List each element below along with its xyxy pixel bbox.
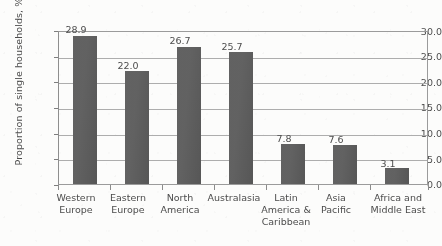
bar-eastern-europe <box>125 71 149 184</box>
x-label-asia-pacific: Asia Pacific <box>312 192 360 216</box>
x-label-eastern-europe: Eastern Europe <box>104 192 152 216</box>
bar-australasia <box>229 52 253 184</box>
bar-value-asia-pacific: 7.6 <box>314 135 358 145</box>
x-label-africa-middle-east: Africa and Middle East <box>362 192 434 216</box>
bar-value-latin-america: 7.8 <box>262 134 306 144</box>
x-label-north-america: North America <box>156 192 204 216</box>
x-label-western-europe: Western Europe <box>52 192 100 216</box>
y-axis-title: Proportion of single households, % <box>13 0 24 232</box>
bar-chart-figure: Proportion of single households, % 30.0 … <box>0 0 442 246</box>
x-tick-mark-7 <box>428 185 429 190</box>
bar-north-america <box>177 47 201 184</box>
x-tick-mark-4 <box>266 185 267 190</box>
bar-asia-pacific <box>333 145 357 184</box>
x-tick-mark-6 <box>370 185 371 190</box>
bar-africa-middle-east <box>385 168 409 184</box>
x-tick-mark-2 <box>162 185 163 190</box>
x-label-australasia: Australasia <box>206 192 262 204</box>
x-tick-mark-3 <box>214 185 215 190</box>
bar-latin-america <box>281 144 305 184</box>
x-tick-mark-1 <box>110 185 111 190</box>
x-label-latin-america: Latin America & Caribbean <box>258 192 314 228</box>
bar-value-eastern-europe: 22.0 <box>106 61 150 71</box>
bar-value-north-america: 26.7 <box>158 36 202 46</box>
bar-western-europe <box>73 36 97 184</box>
bar-value-australasia: 25.7 <box>210 42 254 52</box>
bar-value-western-europe: 28.9 <box>54 25 98 35</box>
bar-value-africa-middle-east: 3.1 <box>366 159 410 169</box>
x-tick-mark-5 <box>318 185 319 190</box>
x-tick-mark-0 <box>58 185 59 190</box>
